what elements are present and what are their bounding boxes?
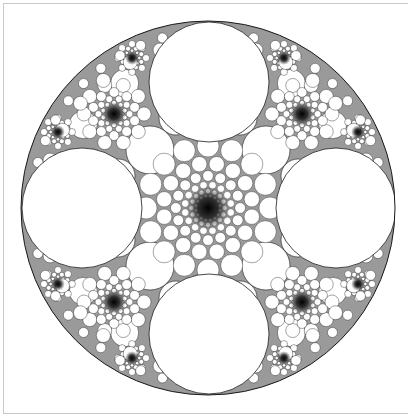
- fractal-image: Apollonian-style circle packing fractal …: [0, 0, 412, 418]
- circle-packing-fractal: [0, 0, 412, 418]
